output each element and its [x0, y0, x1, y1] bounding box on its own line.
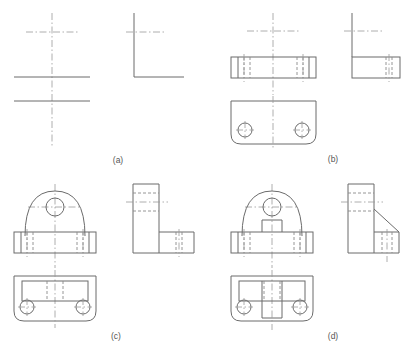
- panel-caption-d: (d): [328, 331, 339, 341]
- drawing-sheet: .ol{stroke:#6b6b6b;stroke-width:1;fill:n…: [0, 0, 410, 354]
- orthographic-projection-figure: .ol{stroke:#6b6b6b;stroke-width:1;fill:n…: [0, 0, 410, 354]
- panel-caption-a: (a): [113, 155, 124, 165]
- panel-caption-b: (b): [328, 154, 339, 164]
- panel-caption-c: (c): [111, 331, 121, 341]
